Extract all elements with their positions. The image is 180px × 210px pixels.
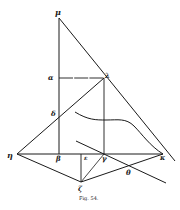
label-lambda: λ bbox=[104, 71, 110, 80]
curve bbox=[75, 112, 163, 154]
label-gamma: γ bbox=[102, 154, 107, 163]
label-epsilon: ε bbox=[84, 154, 88, 161]
line-zeta-kappa bbox=[81, 154, 163, 182]
label-alpha: α bbox=[48, 73, 54, 82]
label-eta: η bbox=[7, 150, 13, 160]
line-mu-kappa bbox=[59, 18, 175, 161]
label-delta: δ bbox=[50, 109, 56, 118]
label-theta: θ bbox=[126, 168, 131, 177]
line-eta-lambda bbox=[17, 78, 104, 154]
label-zeta: ζ bbox=[78, 184, 83, 193]
label-kappa: κ bbox=[159, 153, 165, 162]
trace-line bbox=[76, 141, 166, 183]
geometry-diagram: μ α λ δ η β ε γ κ θ ζ Fig. 54. bbox=[0, 0, 180, 210]
label-beta: β bbox=[55, 154, 61, 163]
line-eta-zeta bbox=[17, 154, 81, 182]
label-mu: μ bbox=[55, 7, 61, 17]
figure-caption: Fig. 54. bbox=[79, 195, 99, 202]
